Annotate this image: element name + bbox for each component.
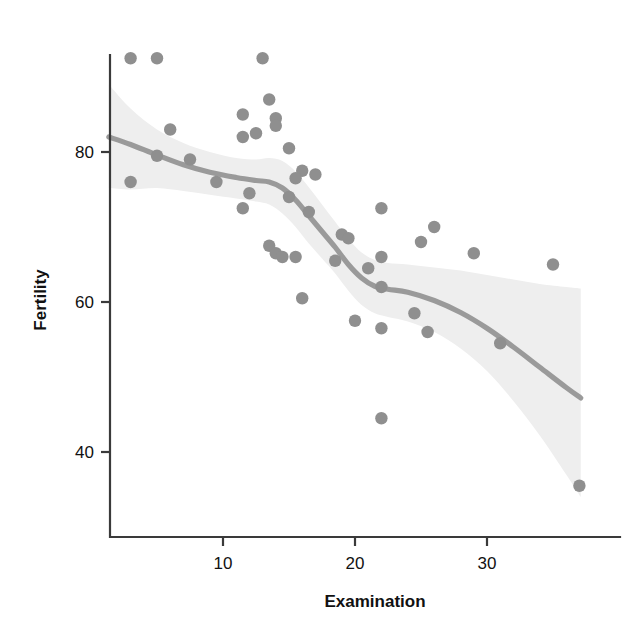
data-point <box>329 255 341 267</box>
data-point <box>494 337 506 349</box>
data-point <box>375 202 387 214</box>
data-point <box>184 153 196 165</box>
data-point <box>237 131 249 143</box>
confidence-band-group <box>109 85 581 498</box>
data-point <box>547 258 559 270</box>
y-tick-label: 80 <box>75 143 94 162</box>
data-point <box>289 172 301 184</box>
data-point <box>375 281 387 293</box>
data-point <box>303 206 315 218</box>
data-point <box>375 412 387 424</box>
data-point <box>375 322 387 334</box>
x-axis-title: Examination <box>324 592 425 611</box>
data-point <box>342 232 354 244</box>
chart-canvas: 406080102030 Examination Fertility <box>0 0 640 638</box>
x-tick-label: 20 <box>346 554 365 573</box>
data-point <box>573 480 585 492</box>
data-point <box>270 120 282 132</box>
data-point <box>210 176 222 188</box>
data-point <box>362 262 374 274</box>
data-point <box>256 52 268 64</box>
data-point <box>289 251 301 263</box>
data-point <box>415 236 427 248</box>
data-point <box>263 93 275 105</box>
data-point <box>283 191 295 203</box>
data-point <box>164 123 176 135</box>
data-point <box>468 247 480 259</box>
x-tick-label: 30 <box>478 554 497 573</box>
data-point <box>283 142 295 154</box>
data-point <box>250 127 262 139</box>
data-point <box>243 187 255 199</box>
data-point <box>276 251 288 263</box>
data-point <box>296 292 308 304</box>
data-point <box>375 251 387 263</box>
data-point <box>349 315 361 327</box>
data-point <box>309 168 321 180</box>
loess-confidence-band <box>109 85 581 498</box>
data-point <box>124 176 136 188</box>
y-tick-label: 40 <box>75 443 94 462</box>
x-tick-label: 10 <box>214 554 233 573</box>
data-point <box>237 202 249 214</box>
y-axis-title: Fertility <box>31 269 50 331</box>
scatter-plot-figure: 406080102030 Examination Fertility <box>0 0 640 638</box>
data-point <box>421 326 433 338</box>
data-point <box>237 108 249 120</box>
data-point <box>151 52 163 64</box>
data-point <box>408 307 420 319</box>
y-tick-label: 60 <box>75 293 94 312</box>
data-point <box>151 150 163 162</box>
data-point <box>124 52 136 64</box>
data-point <box>428 221 440 233</box>
